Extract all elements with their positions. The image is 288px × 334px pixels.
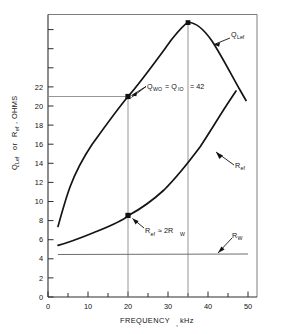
q-lef-label-sub: Lef <box>237 34 245 40</box>
y-tick-label: 20 <box>35 102 43 111</box>
y-tick-label: 8 <box>39 216 43 225</box>
r-ef-curve <box>58 91 236 245</box>
r-w-label-main: R <box>232 231 237 240</box>
r-w-curve <box>58 254 248 255</box>
y-tick-label: 16 <box>35 140 43 149</box>
y-tick-label: 14 <box>35 159 43 168</box>
q-peak-point-marker <box>186 20 191 25</box>
x-tick-label: 10 <box>84 302 92 311</box>
y-tick-label: 4 <box>39 254 43 263</box>
r-ef-label-sub: ef <box>241 165 246 171</box>
y-tick-label: 22 <box>35 83 43 92</box>
y-tick-label: 18 <box>35 121 43 130</box>
x-axis-tick-labels: 0 10 20 30 40 50 <box>46 302 252 311</box>
x-tick-label: 50 <box>244 302 252 311</box>
annotation-ref-sub: ef <box>151 231 156 237</box>
y-tick-label: 6 <box>39 235 43 244</box>
annotation-q-io-sub: IO <box>178 86 183 92</box>
annotation-ref-approx: ≈ 2R <box>158 226 173 235</box>
y-axis-title-q-sub: Lef <box>14 156 20 164</box>
r-w-label-sub: W <box>238 235 243 241</box>
x-axis-ticks <box>48 292 248 298</box>
r-ef-curve-label: R ef <box>216 152 245 171</box>
x-tick-label: 0 <box>46 302 50 311</box>
annotation-q-wo-sub: WO <box>153 86 162 92</box>
q-equality-annotation: Q WO = Q IO = 42 <box>132 82 205 98</box>
annotation-q-io: = Q <box>165 82 177 91</box>
x-tick-label: 40 <box>204 302 212 311</box>
q-operating-point-marker <box>125 94 130 99</box>
y-tick-label: 12 <box>35 178 43 187</box>
q-lef-curve <box>58 22 246 226</box>
r-ef-label-main: R <box>235 161 240 170</box>
y-axis-title-or: or <box>10 142 19 150</box>
y-axis-title-r-sub: ef <box>14 126 20 131</box>
y-tick-label: 2 <box>39 274 43 283</box>
y-tick-label: 0 <box>39 293 43 302</box>
x-axis-title-unit: kHz <box>180 316 194 325</box>
annotation-q-value: = 42 <box>190 82 204 91</box>
figure-container: 0 2 4 6 8 10 12 14 16 18 20 22 <box>0 0 288 334</box>
q-lef-curve-label: Q Lef <box>214 30 245 47</box>
r-w-curve-label: R W <box>218 231 243 253</box>
y-axis-title-r: R <box>10 131 19 137</box>
reference-lines <box>48 23 188 298</box>
annotation-ref: R <box>145 226 150 235</box>
y-axis-tick-labels: 0 2 4 6 8 10 12 14 16 18 20 22 <box>35 83 43 302</box>
y-tick-label: 10 <box>35 197 43 206</box>
x-tick-label: 20 <box>124 302 132 311</box>
x-axis-title: FREQUENCY , kHz <box>120 316 194 328</box>
annotation-ref-approx-sub: W <box>180 231 185 237</box>
x-axis-title-separator: , <box>176 319 178 328</box>
y-axis-ticks <box>48 30 54 297</box>
y-axis-title: Q Lef or R ef , OHMS <box>10 95 20 170</box>
y-axis-title-tail: , OHMS <box>10 95 19 124</box>
chart-svg: 0 2 4 6 8 10 12 14 16 18 20 22 <box>0 0 288 334</box>
ref-operating-point-marker <box>125 213 130 218</box>
ref-approx-annotation: R ef ≈ 2R W <box>133 219 186 237</box>
x-axis-title-main: FREQUENCY <box>120 316 170 325</box>
data-markers <box>125 20 190 218</box>
x-tick-label: 30 <box>164 302 172 311</box>
